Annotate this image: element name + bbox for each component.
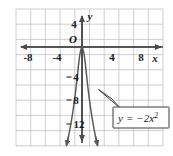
y-tick-label-neg8: 8 <box>73 94 79 106</box>
y-tick-label-neg12: 12 <box>74 118 86 130</box>
y-axis-name-label: y <box>86 10 93 22</box>
y-tick-label-neg4: 4 <box>73 71 79 83</box>
coordinate-plane-svg: -8 -4 4 8 4 4 8 12 x y O y=−2x2 <box>0 0 173 156</box>
x-tick-label-neg4: -4 <box>52 51 62 63</box>
x-tick-label-neg8: -8 <box>23 51 33 63</box>
equation-operator: = <box>126 112 133 124</box>
graph-figure: -8 -4 4 8 4 4 8 12 x y O y=−2x2 <box>0 0 173 156</box>
equation-lhs: y <box>117 112 123 124</box>
equation-exponent: 2 <box>154 111 158 120</box>
equation-rhs: −2x <box>136 112 154 124</box>
y-tick-label-4: 4 <box>71 18 77 30</box>
x-axis-name-label: x <box>151 52 158 64</box>
x-tick-label-4: 4 <box>109 51 115 63</box>
x-tick-label-8: 8 <box>138 51 144 63</box>
origin-label: O <box>69 33 77 45</box>
